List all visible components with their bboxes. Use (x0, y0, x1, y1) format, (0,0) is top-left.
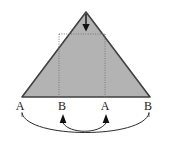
diagram-canvas (0, 0, 171, 141)
outer-arc-connector (22, 113, 149, 133)
base-label-b2: B (141, 100, 155, 112)
base-label-a1: A (13, 100, 27, 112)
base-label-a2: A (98, 100, 112, 112)
base-label-b1: B (55, 100, 69, 112)
inner-arc-connector (63, 123, 106, 131)
up-arrow-icon-b (60, 114, 67, 123)
up-arrow-icon-a (103, 114, 110, 123)
figure-container: A B A B (0, 0, 171, 141)
